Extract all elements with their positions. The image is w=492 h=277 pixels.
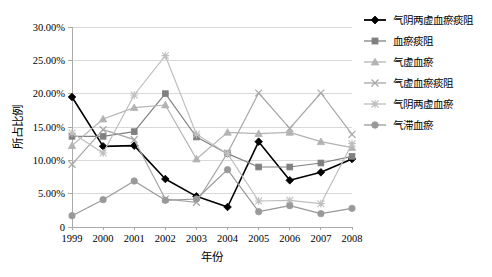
line-chart: 05.00%10.00%15.00%20.00%25.00%30.00% 199…: [0, 0, 492, 277]
data-point-marker: [372, 38, 378, 44]
data-point-marker: [130, 91, 138, 99]
data-point-marker: [287, 202, 293, 208]
data-point-marker: [348, 140, 356, 148]
data-point-marker: [255, 208, 261, 214]
data-point-marker: [256, 164, 262, 170]
y-tick-label: 20.00%: [33, 88, 66, 99]
legend-item[interactable]: 气虚血瘀: [364, 56, 434, 68]
data-point-marker: [318, 210, 324, 216]
series-line: [72, 93, 352, 202]
data-point-marker: [162, 197, 168, 203]
chart-legend: 气阴两虚血瘀痰阻血瘀痰阻气虚血瘀气虚血瘀痰阻气阴两虚血瘀气滞血瘀: [364, 14, 474, 131]
y-tick-label: 0: [60, 222, 65, 233]
legend-item-label: 气阴两虚血瘀痰阻: [393, 14, 474, 26]
data-point-marker: [162, 101, 169, 108]
legend-item[interactable]: 气滞血瘀: [364, 119, 434, 131]
data-point-marker: [372, 122, 379, 129]
data-point-marker: [318, 160, 324, 166]
plot-gridlines: [72, 27, 352, 194]
data-point-marker: [317, 169, 325, 177]
y-tick-label: 30.00%: [33, 22, 66, 33]
data-point-marker: [317, 90, 324, 97]
plot-axes: [68, 27, 352, 230]
y-tick-label: 15.00%: [33, 122, 66, 133]
x-tick-label: 2007: [310, 233, 331, 244]
data-point-marker: [349, 205, 355, 211]
legend-item-label: 血瘀痰阻: [393, 35, 434, 47]
x-tick-label: 2004: [217, 233, 239, 244]
data-point-marker: [349, 153, 355, 159]
data-point-marker: [193, 196, 199, 202]
legend-item[interactable]: 气阴两虚血瘀痰阻: [364, 14, 474, 26]
x-tick-label: 2000: [93, 233, 114, 244]
data-point-marker: [371, 100, 379, 108]
legend-item[interactable]: 气阴两虚血瘀: [364, 98, 454, 110]
data-point-marker: [99, 149, 107, 157]
data-point-marker: [162, 91, 168, 97]
x-tick-label: 2003: [186, 233, 207, 244]
data-point-marker: [287, 164, 293, 170]
x-tick-label: 2005: [248, 233, 269, 244]
data-point-marker: [255, 197, 263, 205]
legend-item[interactable]: 气虚血瘀痰阻: [364, 77, 454, 89]
series-line: [72, 56, 352, 204]
y-tick-label: 5.00%: [38, 188, 65, 199]
data-point-marker: [193, 130, 201, 138]
x-tick-label: 2006: [279, 233, 300, 244]
x-tick-label: 1999: [62, 233, 83, 244]
legend-item-label: 气虚血瘀: [393, 56, 434, 68]
data-point-marker: [224, 166, 230, 172]
legend-item-label: 气虚血瘀痰阻: [393, 77, 454, 89]
legend-item-label: 气滞血瘀: [393, 119, 434, 131]
data-point-marker: [100, 133, 106, 139]
data-point-marker: [224, 203, 232, 211]
y-tick-label: 25.00%: [33, 55, 66, 66]
data-point-marker: [371, 16, 379, 24]
data-series: [68, 101, 355, 162]
legend-item[interactable]: 血瘀痰阻: [364, 35, 434, 47]
data-point-marker: [131, 129, 137, 135]
data-point-marker: [349, 131, 356, 138]
data-point-marker: [68, 93, 76, 101]
x-axis-title: 年份: [201, 250, 224, 263]
data-series: [68, 93, 356, 211]
y-axis-title: 所占比例: [11, 105, 24, 149]
data-point-marker: [161, 52, 169, 60]
x-tick-label: 2001: [124, 233, 145, 244]
x-axis-tick-labels: 1999200020012002200320042005200620072008: [62, 233, 363, 244]
data-point-marker: [131, 178, 137, 184]
x-tick-label: 2002: [155, 233, 176, 244]
data-point-marker: [68, 129, 76, 137]
chart-container: 05.00%10.00%15.00%20.00%25.00%30.00% 199…: [0, 0, 492, 277]
data-point-marker: [69, 212, 75, 218]
data-series: [69, 90, 356, 206]
data-point-marker: [100, 196, 106, 202]
x-tick-label: 2008: [342, 233, 363, 244]
data-point-marker: [317, 200, 325, 208]
series-line: [72, 97, 352, 207]
y-axis-tick-labels: 05.00%10.00%15.00%20.00%25.00%30.00%: [33, 22, 66, 233]
y-tick-label: 10.00%: [33, 155, 66, 166]
data-point-marker: [224, 150, 232, 158]
data-point-marker: [255, 90, 262, 97]
legend-item-label: 气阴两虚血瘀: [393, 98, 454, 110]
